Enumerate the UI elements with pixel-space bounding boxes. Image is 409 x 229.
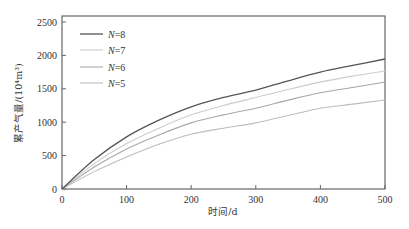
- y-tick-label: 2000: [37, 50, 57, 61]
- x-tick-label: 0: [60, 194, 65, 205]
- line-chart: 05001000150020002500 0100200300400500 N=…: [0, 0, 409, 229]
- legend-label: N=7: [107, 45, 125, 56]
- y-tick-label: 1500: [37, 83, 57, 94]
- y-tick-label: 500: [42, 150, 57, 161]
- plot-frame: [62, 16, 385, 189]
- y-axis-title: 累产气量/(10⁴m³): [13, 63, 24, 142]
- y-tick-label: 2500: [37, 17, 57, 28]
- series-line-n-5: [62, 100, 385, 189]
- y-tick-label: 1000: [37, 117, 57, 128]
- x-tick-label: 100: [119, 194, 134, 205]
- series-line-n-7: [62, 71, 385, 189]
- y-tick-label: 0: [52, 184, 57, 195]
- x-tick-label: 400: [313, 194, 328, 205]
- plot-border: [62, 16, 385, 189]
- x-tick-label: 500: [378, 194, 393, 205]
- legend: N=8N=7N=6N=5: [80, 29, 125, 89]
- legend-label: N=8: [107, 29, 125, 40]
- legend-label: N=5: [107, 78, 125, 89]
- x-axis: 0100200300400500: [60, 185, 393, 205]
- x-tick-label: 200: [184, 194, 199, 205]
- x-tick-label: 300: [248, 194, 263, 205]
- legend-label: N=6: [107, 62, 125, 73]
- x-axis-title: 时间/d: [208, 206, 237, 217]
